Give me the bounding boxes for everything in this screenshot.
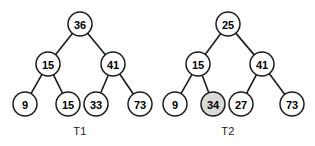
tree-edge bbox=[120, 74, 134, 94]
tree-edge bbox=[269, 74, 285, 95]
tree-edge bbox=[247, 75, 257, 94]
tree-node-label: 27 bbox=[235, 99, 247, 111]
tree-node[interactable]: 9 bbox=[13, 92, 37, 116]
tree-node-label: 36 bbox=[74, 19, 86, 31]
tree-node[interactable]: 34 bbox=[201, 92, 225, 116]
tree-node[interactable]: 15 bbox=[186, 52, 210, 76]
tree-node[interactable]: 15 bbox=[56, 92, 80, 116]
tree-node-label: 15 bbox=[42, 59, 54, 71]
tree-edge bbox=[202, 75, 209, 93]
tree-diagram-canvas: 36154191533732515419342773 T1T2 bbox=[0, 0, 315, 146]
tree-node-label: 25 bbox=[222, 19, 234, 31]
tree-node-label: 41 bbox=[107, 59, 119, 71]
tree-node[interactable]: 73 bbox=[128, 92, 152, 116]
tree-node-label: 9 bbox=[22, 99, 28, 111]
tree-node[interactable]: 41 bbox=[250, 52, 274, 76]
tree-edge bbox=[205, 34, 221, 55]
tree-node[interactable]: 41 bbox=[101, 52, 125, 76]
tree-nodes-layer: 36154191533732515419342773 bbox=[13, 12, 304, 116]
tree-caption-t2: T2 bbox=[221, 125, 234, 137]
tree-node[interactable]: 36 bbox=[68, 12, 92, 36]
tree-edges-layer bbox=[31, 33, 285, 94]
tree-node-label: 73 bbox=[134, 99, 146, 111]
tree-node[interactable]: 25 bbox=[216, 12, 240, 36]
tree-edge bbox=[236, 33, 254, 55]
tree-caption-t1: T1 bbox=[73, 125, 86, 137]
binary-search-tree-figure: 36154191533732515419342773 T1T2 bbox=[0, 0, 315, 146]
tree-node[interactable]: 33 bbox=[84, 92, 108, 116]
tree-node-label: 41 bbox=[256, 59, 268, 71]
tree-node-label: 34 bbox=[207, 99, 220, 111]
tree-node[interactable]: 15 bbox=[36, 52, 60, 76]
tree-edge bbox=[56, 33, 73, 54]
tree-node-label: 33 bbox=[90, 99, 102, 111]
tree-edge bbox=[181, 74, 192, 93]
tree-node-label: 15 bbox=[62, 99, 74, 111]
tree-captions-layer: T1T2 bbox=[73, 125, 234, 137]
tree-node-label: 15 bbox=[192, 59, 204, 71]
tree-edge bbox=[101, 75, 109, 93]
tree-node[interactable]: 9 bbox=[163, 92, 187, 116]
tree-node-label: 9 bbox=[172, 99, 178, 111]
tree-edge bbox=[53, 75, 62, 94]
tree-edge bbox=[31, 74, 42, 93]
tree-edge bbox=[88, 33, 106, 54]
tree-node-label: 73 bbox=[286, 99, 298, 111]
tree-node[interactable]: 73 bbox=[280, 92, 304, 116]
tree-node[interactable]: 27 bbox=[229, 92, 253, 116]
